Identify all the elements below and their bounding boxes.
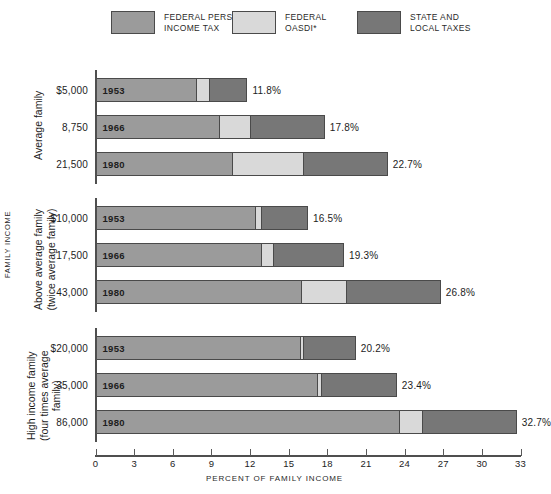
bar-segment-federal-personal-income-tax [97,374,317,396]
bar-segment-federal-personal-income-tax [97,153,233,175]
x-tick-mark [96,449,97,456]
x-tick-label: 21 [360,458,371,469]
x-tick-mark [366,449,367,456]
bar-segment-state-and-local-taxes [347,281,439,303]
x-axis-title: PERCENT OF FAMILY INCOME [0,474,549,483]
x-tick-mark [134,449,135,456]
bar-total-label: 19.3% [349,250,378,261]
x-tick-label: 24 [399,458,410,469]
stacked-bar[interactable]: 1980 [96,152,388,176]
bar-segment-federal-oasdi [399,411,423,433]
bar-segment-state-and-local-taxes [274,244,343,266]
x-tick-mark [443,449,444,456]
stacked-bar[interactable]: 1953 [96,78,248,102]
x-tick-mark [521,449,522,456]
x-tick-label: 33 [515,458,526,469]
bar-total-label: 26.8% [446,287,475,298]
bar-segment-federal-personal-income-tax [97,337,300,359]
x-tick-mark [482,449,483,456]
x-tick-label: 15 [283,458,294,469]
bar-total-label: 17.8% [330,122,359,133]
bar-segment-federal-oasdi [219,116,251,138]
x-tick-label: 0 [93,458,98,469]
bar-segment-federal-oasdi [255,207,263,229]
bar-segment-federal-oasdi [301,281,347,303]
x-tick-label: 3 [131,458,136,469]
x-tick-mark [250,449,251,456]
bar-segment-state-and-local-taxes [304,153,387,175]
x-tick-mark [327,449,328,456]
y-axis-segment [95,198,97,312]
stacked-bar[interactable]: 1966 [96,115,325,139]
bar-segment-federal-oasdi [232,153,304,175]
row-income-label: $5,000 [8,85,88,96]
x-tick-label: 9 [209,458,214,469]
y-axis-segment [95,70,97,184]
group-label-above-average-family: Above average family (twice average fami… [32,200,57,320]
x-tick-label: 18 [322,458,333,469]
y-axis-segment [95,328,97,442]
x-tick-mark [405,449,406,456]
bar-total-label: 22.7% [393,159,422,170]
x-axis-line [95,455,521,457]
bar-total-label: 11.8% [252,85,281,96]
stacked-bar[interactable]: 1980 [96,280,441,304]
bar-total-label: 23.4% [402,380,431,391]
x-tick-label: 27 [438,458,449,469]
bar-total-label: 20.2% [361,343,390,354]
bar-segment-state-and-local-taxes [322,374,396,396]
bar-segment-federal-personal-income-tax [97,281,302,303]
row-income-label: 8,750 [8,122,88,133]
bar-segment-state-and-local-taxes [210,79,247,101]
bar-total-label: 16.5% [313,213,342,224]
bar-segment-federal-personal-income-tax [97,116,220,138]
stacked-bar[interactable]: 1953 [96,336,356,360]
bar-total-label: 32.7% [522,417,551,428]
bar-segment-federal-oasdi [196,79,210,101]
bar-segment-federal-personal-income-tax [97,79,196,101]
x-tick-mark [211,449,212,456]
bar-segment-federal-personal-income-tax [97,411,399,433]
bar-segment-federal-personal-income-tax [97,207,255,229]
x-tick-label: 30 [476,458,487,469]
stacked-bar[interactable]: 1980 [96,410,517,434]
group-label-average-family: Average family [32,65,45,185]
stacked-bar[interactable]: 1966 [96,243,345,267]
group-label-high-income-family: High income family (four times average f… [25,336,63,456]
bar-segment-state-and-local-taxes [262,207,307,229]
bar-segment-state-and-local-taxes [423,411,515,433]
x-tick-label: 12 [245,458,256,469]
row-income-label: 21,500 [8,159,88,170]
stacked-bar[interactable]: 1953 [96,206,309,230]
x-tick-mark [289,449,290,456]
bar-segment-federal-personal-income-tax [97,244,262,266]
x-tick-mark [173,449,174,456]
bar-segment-federal-oasdi [261,244,274,266]
x-tick-label: 6 [170,458,175,469]
bar-segment-state-and-local-taxes [251,116,324,138]
y-axis-title: FAMILY INCOME [3,211,12,278]
stacked-bar[interactable]: 1966 [96,373,397,397]
bar-segment-state-and-local-taxes [304,337,355,359]
